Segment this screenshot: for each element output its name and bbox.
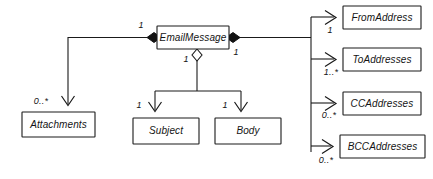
class-label-subject: Subject <box>149 125 184 136</box>
multiplicity-subject-end: 1 <box>136 100 141 110</box>
connector-attachments <box>62 38 148 106</box>
multiplicity-body-end: 1 <box>222 100 227 110</box>
class-label-cc-addresses: CCAddresses <box>351 98 414 109</box>
multiplicity-to-addresses-end: 1..* <box>324 67 339 77</box>
class-node-from-address[interactable]: FromAddress <box>343 6 421 29</box>
class-node-to-addresses[interactable]: ToAddresses <box>343 48 421 71</box>
class-node-subject[interactable]: Subject <box>133 118 199 144</box>
class-node-cc-addresses[interactable]: CCAddresses <box>343 92 421 115</box>
connector-line-attachments <box>68 38 147 105</box>
multiplicity-attachments-end: 0..* <box>34 96 49 106</box>
multiplicity-right-diamond: 1 <box>233 47 238 57</box>
multiplicity-from-address-end: 1 <box>327 25 332 35</box>
class-node-body[interactable]: Body <box>215 118 281 144</box>
class-label-to-addresses: ToAddresses <box>352 54 411 65</box>
multiplicity-bottom-diamond: 1 <box>183 54 188 64</box>
connector-subject-body <box>149 60 248 112</box>
class-label-from-address: FromAddress <box>351 12 412 23</box>
class-node-attachments[interactable]: Attachments <box>22 112 95 137</box>
class-label-attachments: Attachments <box>29 119 87 130</box>
multiplicity-bcc-addresses-end: 0..* <box>319 155 334 165</box>
hollow-diamond-bottom <box>192 49 202 61</box>
multiplicity-left-diamond: 1 <box>138 20 143 30</box>
class-node-bcc-addresses[interactable]: BCCAddresses <box>340 135 425 158</box>
class-label-bcc-addresses: BCCAddresses <box>348 141 418 152</box>
diagram-canvas: EmailMessage Attachments Subject Body Fr… <box>0 0 433 179</box>
uml-class-diagram: EmailMessage Attachments Subject Body Fr… <box>0 0 433 179</box>
class-label-body: Body <box>236 125 260 136</box>
class-label-email-message: EmailMessage <box>160 32 227 43</box>
class-node-email-message[interactable]: EmailMessage <box>157 26 229 49</box>
multiplicity-cc-addresses-end: 0..* <box>322 110 337 120</box>
